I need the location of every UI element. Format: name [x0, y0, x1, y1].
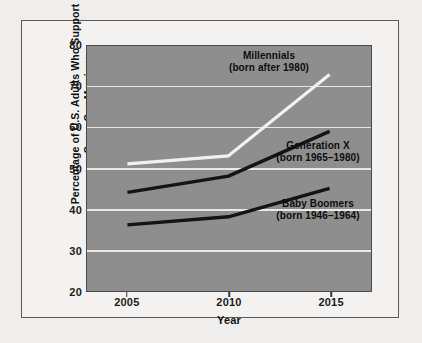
y-tick-label: 50 — [22, 163, 82, 175]
series-annotation-baby-boomers: Baby Boomers (born 1946–1964) — [262, 198, 372, 222]
y-tick-label: 30 — [22, 245, 82, 257]
series-annotation-generation-x: Generation X (born 1965–1980) — [262, 140, 372, 164]
y-tick-label: 40 — [22, 204, 82, 216]
y-tick-label: 70 — [22, 80, 82, 92]
chart-figure: Percentage of U.S. Adults Who Support Sa… — [0, 0, 422, 343]
x-tick-label: 2005 — [114, 296, 139, 308]
plot-area: Millennials (born after 1980) Generation… — [86, 45, 372, 292]
x-axis-title: Year — [86, 314, 372, 326]
x-tick-label: 2015 — [318, 296, 343, 308]
y-tick-label: 80 — [22, 39, 82, 51]
y-tick-label: 60 — [22, 121, 82, 133]
x-axis-tick-labels: 2005 2010 2015 — [86, 296, 372, 316]
series-annotation-millennials: Millennials (born after 1980) — [205, 50, 333, 74]
x-tick-label: 2010 — [216, 296, 241, 308]
data-series-layer — [87, 46, 370, 290]
y-tick-label: 20 — [22, 286, 82, 298]
y-axis-tick-labels: 80 70 60 50 40 30 20 — [18, 45, 82, 292]
